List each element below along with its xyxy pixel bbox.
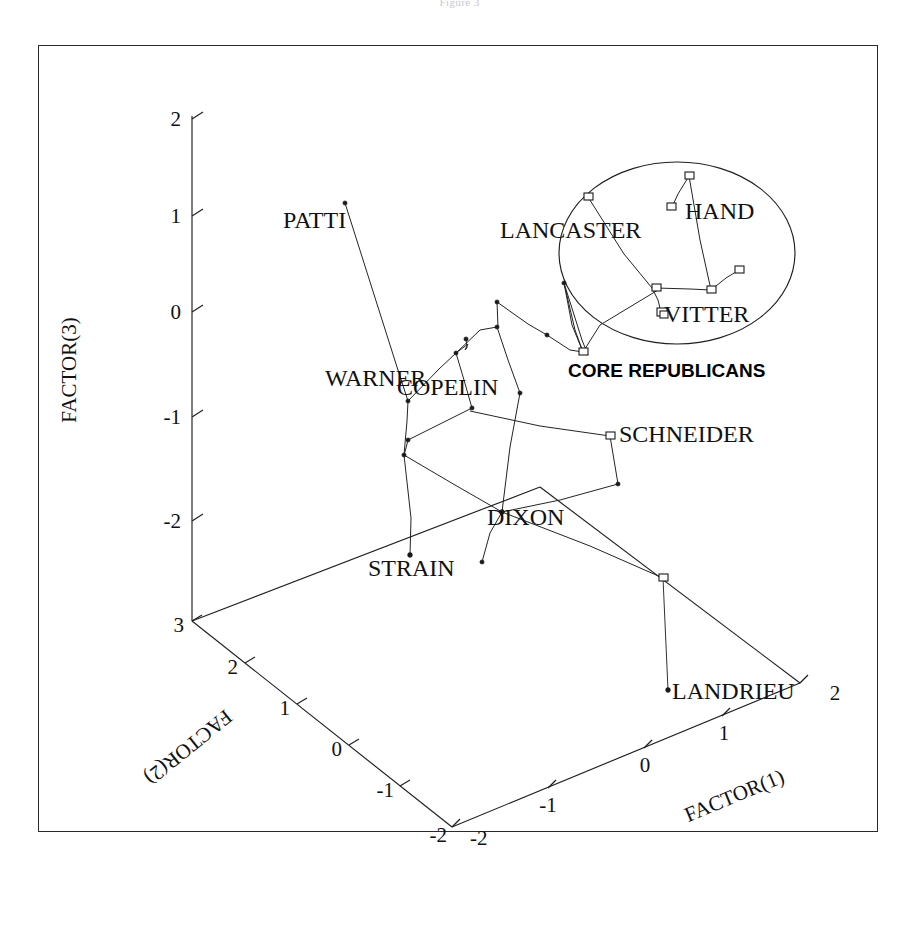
edge-hand-upper [689,176,711,290]
factor1-tick-label-m2: -2 [470,826,488,850]
marker-hand-left[interactable] [667,203,676,210]
label-hand: HAND [685,198,754,224]
floor-back-edge-right [540,487,800,683]
factor2-tick-label-m2: -2 [430,823,448,847]
factor2-tick-label-2: 2 [228,655,239,679]
factor3-tick-label-1: 1 [171,204,182,228]
factor1-tick-label-0: 0 [640,753,651,777]
edge-to-strain [404,455,411,555]
label-copelin: COPELIN [397,374,498,400]
marker-hand-base[interactable] [707,286,716,293]
marker-lancaster[interactable] [584,193,593,200]
factor2-axis-title: FACTOR(2) [140,705,237,790]
factor3-tick-label-0: 0 [171,300,182,324]
marker-node-j[interactable] [616,482,620,486]
marker-node-h[interactable] [406,438,410,442]
drop-lines [663,578,668,690]
factor2-tick-1 [297,698,307,704]
factor3-tick-label-m1: -1 [164,405,182,429]
factor3-axis-title: FACTOR(3) [57,317,81,422]
label-strain: STRAIN [368,555,455,581]
marker-node-e[interactable] [562,281,566,285]
figure-page: Figure 3 2 1 0 -1 -2 FACTOR(3) [0,0,919,945]
factor3-tick-0 [192,305,203,312]
label-dixon: DIXON [487,504,564,530]
marker-cluster-node[interactable] [579,348,588,355]
marker-node-d[interactable] [545,333,549,337]
factor2-tick-2 [245,657,255,663]
factor1-tick-0 [644,740,652,748]
factor3-tick-label-2: 2 [171,107,182,131]
factor1-tick-2 [800,675,808,683]
factor2-tick-label-3: 3 [174,613,185,637]
factor2-ticks [192,615,410,786]
marker-junction-a[interactable] [402,453,406,457]
label-patti: PATTI [283,207,346,233]
marker-copelin-up[interactable] [464,337,468,341]
factor3-tick-2 [192,112,203,119]
factor1-tick-label-2: 2 [830,681,841,705]
marker-node-g[interactable] [470,406,474,410]
factor3-tick-m1 [192,410,203,417]
core-republicans-label: CORE REPUBLICANS [568,360,765,381]
edge-mid-to-peak [497,302,547,335]
factor1-tick-label-m1: -1 [539,793,557,817]
factor1-tick-label-1: 1 [719,721,730,745]
factor2-tick-m1 [400,780,410,786]
edge-mid-spine [497,302,498,327]
marker-vitter-node[interactable] [652,284,661,291]
factor1-axis-line [452,683,800,827]
label-vitter: VITTER [664,301,749,327]
factor2-tick-label-0: 0 [332,737,343,761]
factor2-tick-label-m1: -1 [377,778,395,802]
marker-hand-right[interactable] [735,266,744,273]
edge-spine-down [497,327,520,393]
edge-copelin-to-node [456,327,497,353]
landrieu-drop-line [663,578,668,690]
factor3-tick-label-m2: -2 [164,509,182,533]
edge-spine-down-2 [502,393,520,512]
marker-patti[interactable] [343,201,347,205]
factor2-tick-0 [349,739,359,745]
factor3-tick-m2 [192,514,203,521]
label-schneider: SCHNEIDER [619,421,754,447]
label-lancaster: LANCASTER [500,217,641,243]
marker-copelin[interactable] [454,351,458,355]
label-landrieu: LANDRIEU [672,678,795,704]
marker-landrieu-square[interactable] [659,574,668,581]
edge-node-hand-base [656,288,711,290]
marker-node-b[interactable] [495,325,499,329]
marker-landrieu[interactable] [666,688,671,693]
edge-cluster-triangle-b [564,283,588,355]
factor3-ticks [192,112,203,521]
marker-node-i[interactable] [518,391,522,395]
edge-branch-left [408,408,472,440]
edge-cluster-base [583,290,658,352]
edge-to-schneider [470,411,610,436]
factor3-tick-1 [192,209,203,216]
marker-schneider[interactable] [606,432,615,439]
edge-schneider-down [610,436,618,484]
scatter-plot-3d: 2 1 0 -1 -2 FACTOR(3) 3 2 1 0 -1 -2 FACT… [0,0,919,945]
factor1-axis-title: FACTOR(1) [681,764,788,827]
factor2-tick-label-1: 1 [280,696,291,720]
marker-dixon-branch-end[interactable] [480,560,484,564]
marker-hand-top[interactable] [685,172,694,179]
marker-node-c[interactable] [495,300,499,304]
